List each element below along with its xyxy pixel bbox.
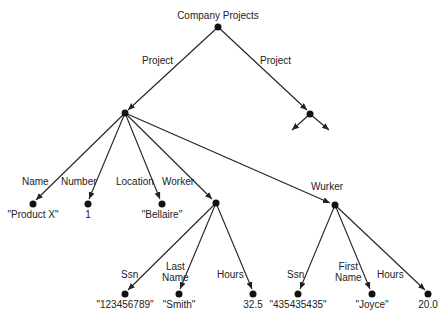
edge-stub-right [310, 114, 329, 130]
edge-label-w2-firstname: First Name [335, 261, 362, 283]
edge-label-project-left: Project [142, 55, 173, 66]
edge-label-location: Location [116, 176, 154, 187]
value-number: 1 [85, 209, 91, 220]
node-w2-ssn [295, 291, 302, 298]
value-w2-hours: 20.0 [418, 299, 437, 310]
node-project-right [307, 111, 314, 118]
node-number [85, 201, 92, 208]
edge-label-w2-firstname-line1: First [335, 261, 362, 272]
node-project-left [122, 110, 129, 117]
value-w1-ssn: "123456789" [96, 299, 153, 310]
edge-label-w2-hours: Hours [377, 269, 404, 280]
edge-label-w1-lastname: Last Name [162, 261, 189, 283]
edge-label-w1-lastname-line2: Name [162, 272, 189, 283]
value-location: "Bellaire" [142, 209, 182, 220]
value-w1-hours: 32.5 [243, 299, 262, 310]
node-worker1 [213, 200, 220, 207]
edge-label-w1-hours: Hours [217, 269, 244, 280]
node-name [30, 201, 37, 208]
value-name: "Product X" [7, 209, 58, 220]
edge-w2-ssn [300, 205, 335, 289]
node-w1-lastname [176, 291, 183, 298]
edge-stub-left [292, 114, 310, 130]
node-worker2 [332, 202, 339, 209]
edge-label-worker1: Worker [162, 176, 194, 187]
node-location [159, 201, 166, 208]
node-w2-firstname [369, 291, 376, 298]
node-w1-hours [250, 291, 257, 298]
edge-label-number: Number [61, 176, 97, 187]
edge-label-w1-ssn: Ssn [121, 269, 138, 280]
edge-project-left [128, 27, 218, 110]
edge-label-w1-lastname-line1: Last [162, 261, 189, 272]
node-w1-ssn [122, 291, 129, 298]
value-w2-firstname: "Joyce" [355, 299, 388, 310]
node-w2-hours [425, 291, 432, 298]
edge-label-name: Name [22, 176, 49, 187]
value-w2-ssn: "435435435" [269, 299, 326, 310]
edge-label-w2-ssn: Ssn [287, 269, 304, 280]
edge-label-worker2: Wurker [311, 181, 343, 192]
edge-label-w2-firstname-line2: Name [335, 272, 362, 283]
edge-project-right [218, 27, 307, 110]
node-root [215, 24, 222, 31]
root-label: Company Projects [177, 10, 259, 21]
edge-label-project-right: Project [260, 55, 291, 66]
value-w1-lastname: "Smith" [163, 299, 196, 310]
